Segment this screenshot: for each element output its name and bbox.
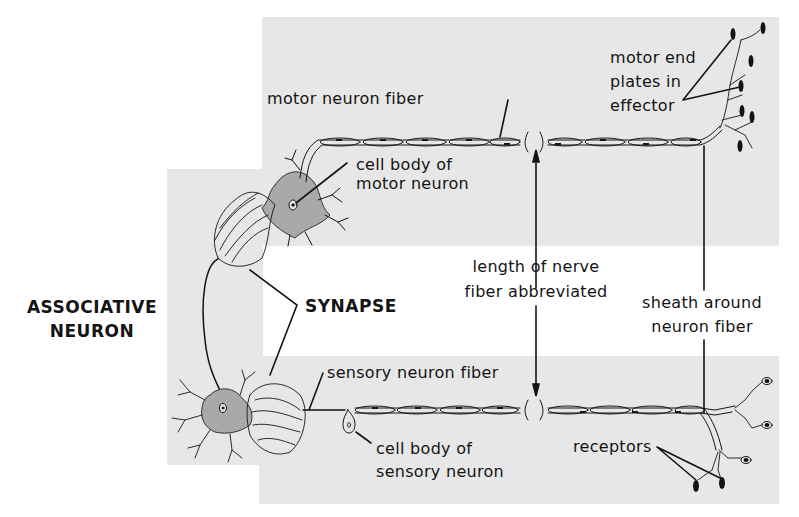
label-associative-neuron: ASSOCIATIVE NEURON xyxy=(22,295,162,343)
label-line: effector xyxy=(610,94,696,118)
label-line: sensory neuron xyxy=(376,460,504,483)
label-motor-end-plates: motor end plates in effector xyxy=(610,46,696,118)
label-line: neuron fiber xyxy=(632,315,772,339)
label-synapse: SYNAPSE xyxy=(305,295,397,317)
label-sheath: sheath around neuron fiber xyxy=(632,291,772,339)
label-cell-body-motor: cell body of motor neuron xyxy=(356,155,469,193)
label-cell-body-sensory: cell body of sensory neuron xyxy=(376,437,504,483)
label-line: fiber abbreviated xyxy=(455,279,617,304)
label-length-abbreviated: length of nerve fiber abbreviated xyxy=(455,254,617,304)
label-line: NEURON xyxy=(22,319,162,343)
label-receptors: receptors xyxy=(573,437,652,456)
synapse-cluster-lower xyxy=(247,384,305,454)
label-line: motor neuron xyxy=(356,174,469,193)
label-line: ASSOCIATIVE xyxy=(22,295,162,319)
label-line: plates in xyxy=(610,70,696,94)
sensory-neuron xyxy=(303,378,772,493)
associative-neuron xyxy=(172,259,255,462)
label-line: length of nerve xyxy=(455,254,617,279)
label-line: cell body of xyxy=(356,155,469,174)
label-line: motor end xyxy=(610,46,696,70)
label-line: cell body of xyxy=(376,437,504,460)
label-sensory-neuron-fiber: sensory neuron fiber xyxy=(327,363,499,382)
label-line: sheath around xyxy=(632,291,772,315)
label-motor-neuron-fiber: motor neuron fiber xyxy=(267,89,424,108)
